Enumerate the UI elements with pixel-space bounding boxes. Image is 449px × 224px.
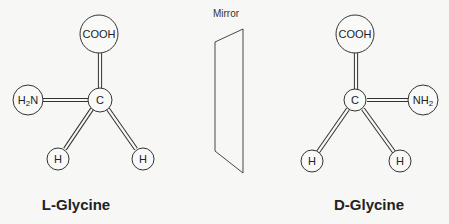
mirror-plane — [215, 29, 243, 173]
glycine-enantiomers-diagram: COOH C H2N H H L-Glycine Mirror COOH C N… — [0, 0, 449, 224]
d-glycine-hydrogen-left: H — [301, 150, 323, 172]
l-glycine-cooh-atom: COOH — [80, 15, 118, 53]
d-glycine-hydrogen-right: H — [389, 150, 411, 172]
carbon-label: C — [96, 94, 104, 106]
mirror-label: Mirror — [213, 8, 240, 19]
cooh-label: COOH — [83, 28, 116, 40]
l-glycine-hydrogen-left: H — [47, 148, 69, 170]
cooh-label: COOH — [339, 28, 372, 40]
svg-text:H: H — [308, 155, 316, 167]
l-glycine-title: L-Glycine — [42, 196, 110, 213]
d-glycine-amine-atom: NH2 — [408, 85, 438, 115]
svg-text:H: H — [54, 153, 62, 165]
d-glycine-cooh-atom: COOH — [336, 15, 374, 53]
svg-text:H: H — [139, 153, 147, 165]
l-glycine-hydrogen-right: H — [132, 148, 154, 170]
carbon-label: C — [351, 94, 359, 106]
d-glycine-title: D-Glycine — [334, 196, 404, 213]
l-glycine-amine-atom: H2N — [13, 85, 43, 115]
svg-text:H: H — [396, 155, 404, 167]
l-glycine-carbon-atom: C — [88, 88, 112, 112]
d-glycine-carbon-atom: C — [344, 89, 366, 111]
